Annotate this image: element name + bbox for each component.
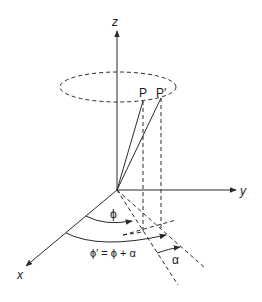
phi-prime-label: ϕ′ = ϕ + α bbox=[90, 247, 136, 259]
alpha-label: α bbox=[172, 253, 179, 267]
projection-crossline bbox=[123, 220, 176, 235]
phi-label: ϕ bbox=[110, 207, 117, 221]
z-axis-label: z bbox=[111, 15, 118, 29]
x-axis-label: x bbox=[16, 268, 24, 282]
y-axis-label: y bbox=[239, 184, 247, 198]
phi-arc bbox=[86, 216, 132, 223]
vector-op bbox=[117, 101, 143, 190]
vector-op-prime bbox=[117, 98, 161, 190]
radial-line-phi bbox=[117, 190, 178, 285]
rotation-diagram: z y x P P′ ϕ ϕ′ = ϕ + α α bbox=[0, 0, 262, 302]
point-p-label: P bbox=[139, 86, 147, 100]
point-p-prime-label: P′ bbox=[156, 86, 167, 100]
phi-prime-arc bbox=[66, 233, 166, 242]
